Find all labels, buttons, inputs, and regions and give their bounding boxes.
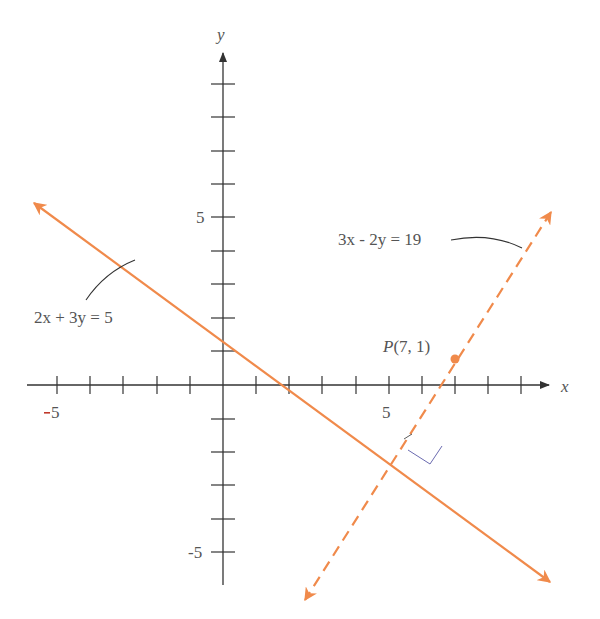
- x-axis: [27, 376, 549, 394]
- point-p-coords: (7, 1): [393, 337, 430, 356]
- line-2x-plus-3y-eq-5: [34, 203, 550, 582]
- point-p: [451, 355, 460, 364]
- y-axis: [211, 53, 235, 585]
- x-axis-label: x: [560, 377, 569, 396]
- leader-line-2: [451, 237, 522, 248]
- equation-label-line2: 3x - 2y = 19: [338, 230, 421, 249]
- x-tick-label-neg5-digit: 5: [51, 403, 60, 422]
- point-p-label: P(7, 1): [382, 337, 430, 356]
- minus-sign-accent: [44, 412, 50, 414]
- equation-label-line1: 2x + 3y = 5: [34, 308, 113, 327]
- x-tick-label-neg5: 5: [44, 403, 60, 422]
- y-axis-label: y: [215, 25, 225, 44]
- line-3x-minus-2y-eq-19: [305, 212, 551, 600]
- y-tick-label-neg5: -5: [188, 543, 202, 562]
- coordinate-plane: y x 5 5 5 -5 P(7, 1) 2x + 3y = 5 3x - 2y…: [0, 0, 600, 619]
- y-tick-label-5: 5: [196, 208, 205, 227]
- point-p-name: P: [382, 337, 393, 356]
- right-angle-tick: [404, 434, 412, 439]
- leader-line-1: [86, 260, 135, 300]
- right-angle-marker: [408, 446, 442, 464]
- x-tick-label-5: 5: [382, 403, 391, 422]
